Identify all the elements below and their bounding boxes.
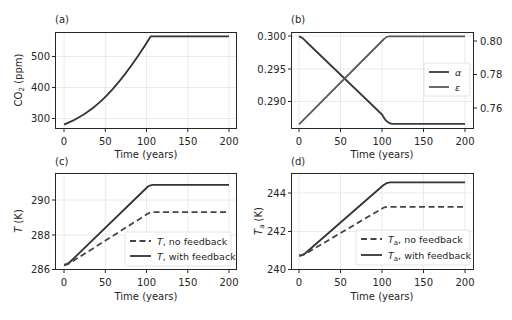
legend-t-no-feedback: T, no feedback [157,236,228,247]
xlabel-c: Time (years) [114,291,178,302]
svg-text:0: 0 [61,136,67,147]
svg-text:100: 100 [372,277,391,288]
ylabel-c: T (K) [13,209,24,233]
xticks-c: 0 50 100 150 200 [61,270,239,289]
svg-text:0.78: 0.78 [480,69,502,80]
svg-text:0: 0 [296,277,302,288]
grid-a [56,33,236,128]
ylabel-a: CO2 (ppm) [13,54,26,107]
frame-a [56,33,237,129]
panel-d: (d) 244 242 240 0 50 [253,156,475,302]
svg-text:0: 0 [296,136,302,147]
xlabel-d: Time (years) [350,291,414,302]
figure: (a) [0,0,512,320]
svg-text:50: 50 [334,136,347,147]
svg-text:50: 50 [99,136,112,147]
svg-text:200: 200 [455,277,474,288]
yticks-left-b: 0.300 0.295 0.290 [257,31,291,108]
svg-text:500: 500 [31,51,50,62]
svg-text:300: 300 [31,113,50,124]
xticks-a: 0 50 100 150 200 [61,129,239,148]
svg-text:100: 100 [372,136,391,147]
svg-text:100: 100 [137,277,156,288]
panel-label-a: (a) [55,14,69,25]
panel-c: (c) 290 288 286 0 50 [13,156,239,302]
svg-text:0: 0 [61,277,67,288]
svg-text:50: 50 [99,277,112,288]
panel-a: (a) [13,14,239,160]
svg-text:150: 150 [178,136,197,147]
svg-text:200: 200 [219,136,238,147]
legend-alpha: α [455,67,462,78]
svg-text:244: 244 [267,188,286,199]
svg-text:50: 50 [334,277,347,288]
xlabel-a: Time (years) [114,149,178,160]
xlabel-b: Time (years) [350,149,414,160]
svg-text:0.80: 0.80 [480,36,502,47]
svg-text:200: 200 [219,277,238,288]
svg-text:400: 400 [31,82,50,93]
xticks-b: 0 50 100 150 200 [296,129,475,148]
ylabel-d: Ta (K) [253,207,266,235]
svg-text:0.76: 0.76 [480,103,502,114]
svg-text:288: 288 [31,230,50,241]
panel-b: (b) 0.300 0.295 0.290 0.80 [257,14,502,160]
panel-label-c: (c) [55,156,68,167]
svg-text:240: 240 [267,264,286,275]
svg-text:150: 150 [414,277,433,288]
yticks-right-b: 0.80 0.78 0.76 [474,36,503,114]
panel-label-b: (b) [291,14,305,25]
yticks-c: 290 288 286 [31,195,56,276]
svg-text:242: 242 [267,226,286,237]
yticks-a: 300 400 500 [31,51,56,124]
svg-text:150: 150 [414,136,433,147]
xticks-d: 0 50 100 150 200 [296,270,475,289]
svg-text:0.290: 0.290 [257,96,286,107]
legend-d: Ta, no feedback Ta, with feedback [356,230,471,265]
svg-text:286: 286 [31,264,50,275]
svg-text:200: 200 [455,136,474,147]
panel-label-d: (d) [291,156,305,167]
legend-b: α ε [424,63,470,96]
legend-t-with-feedback: T, with feedback [157,251,236,262]
svg-text:150: 150 [178,277,197,288]
svg-text:290: 290 [31,195,50,206]
yticks-d: 244 242 240 [267,188,292,276]
svg-text:0.295: 0.295 [257,64,286,75]
svg-text:0.300: 0.300 [257,31,286,42]
svg-text:100: 100 [137,136,156,147]
legend-epsilon: ε [455,82,460,93]
legend-c: T, no feedback T, with feedback [125,232,236,266]
